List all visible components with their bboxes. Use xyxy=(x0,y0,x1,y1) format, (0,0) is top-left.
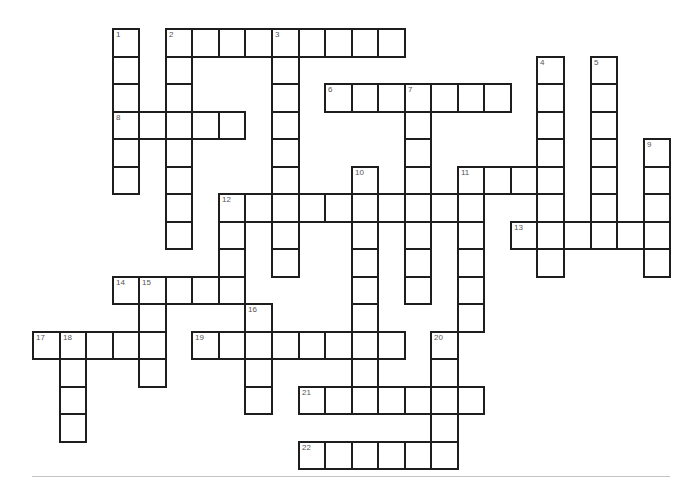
letter-input[interactable] xyxy=(193,113,218,138)
letter-input[interactable] xyxy=(353,168,377,193)
letter-input[interactable] xyxy=(379,333,404,358)
grid-cell[interactable] xyxy=(351,248,379,278)
grid-cell[interactable] xyxy=(404,248,432,278)
grid-cell[interactable] xyxy=(324,28,353,58)
grid-cell[interactable] xyxy=(563,221,592,250)
letter-input[interactable] xyxy=(538,195,563,221)
letter-input[interactable] xyxy=(300,30,324,56)
grid-cell[interactable] xyxy=(536,83,565,113)
letter-input[interactable] xyxy=(326,388,351,413)
letter-input[interactable] xyxy=(300,443,324,468)
grid-cell[interactable] xyxy=(457,83,485,113)
letter-input[interactable] xyxy=(406,388,430,413)
letter-input[interactable] xyxy=(406,278,430,303)
letter-input[interactable] xyxy=(485,168,510,193)
letter-input[interactable] xyxy=(432,333,457,358)
letter-input[interactable] xyxy=(432,415,457,441)
grid-cell[interactable] xyxy=(404,166,432,195)
grid-cell[interactable] xyxy=(324,193,353,223)
letter-input[interactable] xyxy=(406,140,430,166)
grid-cell[interactable]: 19 xyxy=(191,331,220,360)
letter-input[interactable] xyxy=(645,140,669,166)
grid-cell[interactable] xyxy=(590,83,618,113)
letter-input[interactable] xyxy=(379,85,404,111)
letter-input[interactable] xyxy=(246,195,271,221)
grid-cell[interactable] xyxy=(643,221,671,250)
letter-input[interactable] xyxy=(300,195,324,221)
letter-input[interactable] xyxy=(114,278,138,303)
letter-input[interactable] xyxy=(538,113,563,138)
letter-input[interactable] xyxy=(193,30,218,56)
letter-input[interactable] xyxy=(538,58,563,83)
grid-cell[interactable] xyxy=(191,28,220,58)
letter-input[interactable] xyxy=(459,250,483,276)
grid-cell[interactable] xyxy=(536,248,565,278)
letter-input[interactable] xyxy=(114,30,138,56)
grid-cell[interactable]: 11 xyxy=(457,166,485,195)
grid-cell[interactable] xyxy=(643,166,671,195)
grid-cell[interactable] xyxy=(351,83,379,113)
letter-input[interactable] xyxy=(512,168,536,193)
grid-cell[interactable] xyxy=(244,358,273,388)
letter-input[interactable] xyxy=(459,223,483,248)
letter-input[interactable] xyxy=(114,113,138,138)
letter-input[interactable] xyxy=(592,140,616,166)
grid-cell[interactable] xyxy=(377,441,406,470)
grid-cell[interactable] xyxy=(165,111,193,140)
letter-input[interactable] xyxy=(432,360,457,386)
grid-cell[interactable] xyxy=(298,331,326,360)
letter-input[interactable] xyxy=(167,113,191,138)
letter-input[interactable] xyxy=(273,223,298,248)
letter-input[interactable] xyxy=(193,333,218,358)
letter-input[interactable] xyxy=(645,250,669,276)
grid-cell[interactable] xyxy=(643,248,671,278)
letter-input[interactable] xyxy=(592,223,616,248)
grid-cell[interactable] xyxy=(191,276,220,305)
grid-cell[interactable] xyxy=(430,358,459,388)
letter-input[interactable] xyxy=(140,278,165,303)
grid-cell[interactable] xyxy=(590,111,618,140)
grid-cell[interactable] xyxy=(112,138,140,168)
grid-cell[interactable] xyxy=(112,166,140,195)
grid-cell[interactable] xyxy=(377,28,406,58)
grid-cell[interactable] xyxy=(616,221,645,250)
letter-input[interactable] xyxy=(273,333,298,358)
letter-input[interactable] xyxy=(61,333,85,358)
grid-cell[interactable] xyxy=(244,386,273,415)
letter-input[interactable] xyxy=(220,250,244,276)
grid-cell[interactable]: 5 xyxy=(590,56,618,85)
grid-cell[interactable] xyxy=(244,28,273,58)
grid-cell[interactable]: 6 xyxy=(324,83,353,113)
grid-cell[interactable] xyxy=(324,441,353,470)
letter-input[interactable] xyxy=(618,223,643,248)
grid-cell[interactable] xyxy=(191,111,220,140)
grid-cell[interactable] xyxy=(112,56,140,85)
letter-input[interactable] xyxy=(114,58,138,83)
letter-input[interactable] xyxy=(538,250,563,276)
grid-cell[interactable] xyxy=(377,83,406,113)
letter-input[interactable] xyxy=(246,333,271,358)
grid-cell[interactable] xyxy=(536,193,565,223)
letter-input[interactable] xyxy=(220,278,244,303)
letter-input[interactable] xyxy=(512,223,536,248)
letter-input[interactable] xyxy=(459,305,483,331)
grid-cell[interactable]: 18 xyxy=(59,331,87,360)
grid-cell[interactable] xyxy=(536,138,565,168)
grid-cell[interactable] xyxy=(430,193,459,223)
letter-input[interactable] xyxy=(220,195,244,221)
letter-input[interactable] xyxy=(326,333,351,358)
letter-input[interactable] xyxy=(645,195,669,221)
letter-input[interactable] xyxy=(432,443,457,468)
grid-cell[interactable]: 22 xyxy=(298,441,326,470)
grid-cell[interactable] xyxy=(404,276,432,305)
letter-input[interactable] xyxy=(353,333,377,358)
letter-input[interactable] xyxy=(326,443,351,468)
letter-input[interactable] xyxy=(353,278,377,303)
grid-cell[interactable] xyxy=(430,386,459,415)
grid-cell[interactable] xyxy=(218,221,246,250)
grid-cell[interactable] xyxy=(510,166,538,195)
grid-cell[interactable] xyxy=(85,331,114,360)
grid-cell[interactable] xyxy=(536,166,565,195)
letter-input[interactable] xyxy=(459,168,483,193)
letter-input[interactable] xyxy=(379,195,404,221)
